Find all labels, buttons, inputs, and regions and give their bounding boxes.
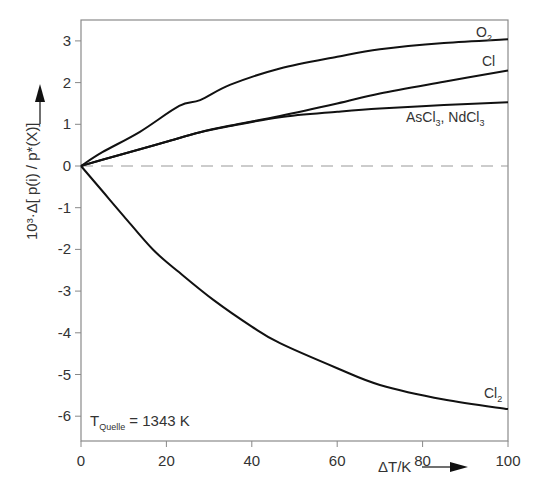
chart: 3210-1-2-3-4-5-6 020406080100 O2 Cl AsCl… [0, 0, 538, 503]
y-tick-label: 2 [63, 74, 71, 91]
y-tick-label: -2 [58, 240, 71, 257]
y-tick-label: -4 [58, 324, 71, 341]
x-axis-title: ΔT/K [378, 458, 411, 475]
x-tick-label: 20 [158, 452, 175, 469]
y-tick-label: -3 [58, 282, 71, 299]
y-tick-label: -6 [58, 407, 71, 424]
label-cl: Cl [482, 53, 495, 69]
x-tick-label: 0 [77, 452, 85, 469]
y-axis-ticks: 3210-1-2-3-4-5-6 [58, 32, 81, 424]
y-arrow-icon [35, 84, 45, 102]
curve-cl2 [81, 166, 508, 409]
y-tick-label: -5 [58, 366, 71, 383]
y-axis-title: 10³·Δ[ p(i) / p*(X)] [23, 122, 40, 240]
y-tick-label: 0 [63, 157, 71, 174]
x-tick-label: 60 [329, 452, 346, 469]
y-tick-label: 3 [63, 32, 71, 49]
label-ascl3-ndcl3: AsCl3, NdCl3 [406, 109, 485, 128]
curves [81, 39, 508, 409]
plot-frame [81, 20, 508, 441]
x-arrow-icon [450, 462, 468, 472]
source-temperature-annotation: TQuelle = 1343 K [90, 412, 190, 432]
y-tick-label: 1 [63, 115, 71, 132]
x-tick-label: 40 [243, 452, 260, 469]
label-cl2: Cl2 [484, 385, 502, 404]
y-tick-label: -1 [58, 199, 71, 216]
x-tick-label: 100 [495, 452, 520, 469]
